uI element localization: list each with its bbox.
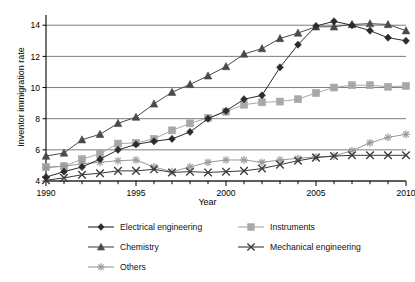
data-point-diamond — [385, 34, 392, 41]
data-point-square — [385, 83, 392, 90]
data-point-asterisk — [366, 139, 374, 147]
legend-marker-x-icon — [236, 240, 266, 254]
legend-entry-instruments[interactable]: Instruments — [236, 218, 315, 235]
data-point-asterisk — [222, 156, 230, 164]
data-point-square — [248, 223, 255, 230]
chart-legend: Electrical engineeringInstrumentsChemist… — [0, 216, 415, 282]
data-point-asterisk — [240, 156, 248, 164]
data-point-diamond — [169, 135, 176, 142]
y-tick-label: 4 — [35, 176, 40, 186]
data-point-asterisk — [132, 156, 140, 164]
data-point-triangle — [186, 80, 194, 87]
data-point-diamond — [259, 92, 266, 99]
data-point-diamond — [367, 27, 374, 34]
legend-label: Chemistry — [120, 242, 159, 252]
legend-item: Instruments — [236, 218, 315, 235]
legend-marker-asterisk-icon — [86, 260, 116, 274]
plot-area: 46810121419901995200020052010 — [0, 0, 415, 215]
data-point-square — [259, 99, 266, 106]
data-point-square — [313, 89, 320, 96]
data-point-triangle — [366, 20, 374, 27]
y-tick-label: 8 — [35, 114, 40, 124]
x-axis-title: Year — [0, 197, 415, 207]
data-point-asterisk — [97, 263, 104, 270]
legend-entry-mechanical-engineering[interactable]: Mechanical engineering — [236, 238, 361, 255]
data-point-triangle — [204, 72, 212, 79]
legend-label: Instruments — [270, 222, 315, 232]
legend-marker-triangle-icon — [86, 240, 116, 254]
data-point-asterisk — [402, 130, 410, 138]
legend-marker-diamond-icon — [86, 220, 116, 234]
y-axis-title: Inventor immigration rate — [16, 37, 26, 157]
data-point-diamond — [403, 37, 410, 44]
legend-marker-square-icon — [236, 220, 266, 234]
legend-label: Mechanical engineering — [270, 242, 361, 252]
data-point-triangle — [168, 88, 176, 95]
data-point-triangle — [96, 130, 104, 137]
data-point-square — [169, 127, 176, 134]
chart-page: 46810121419901995200020052010 Inventor i… — [0, 0, 415, 282]
series-chemistry — [42, 20, 410, 160]
y-tick-label: 6 — [35, 145, 40, 155]
legend-entry-chemistry[interactable]: Chemistry — [86, 238, 159, 255]
data-point-square — [277, 98, 284, 105]
y-tick-label: 14 — [30, 20, 40, 30]
data-point-asterisk — [204, 158, 212, 166]
legend-item: Mechanical engineering — [236, 238, 361, 255]
data-point-triangle — [132, 113, 140, 120]
legend-entry-others[interactable]: Others — [86, 258, 146, 275]
legend-item: Electrical engineering — [86, 218, 202, 235]
legend-entry-electrical-engineering[interactable]: Electrical engineering — [86, 218, 202, 235]
data-point-asterisk — [42, 164, 50, 172]
data-point-square — [367, 82, 374, 89]
data-point-asterisk — [114, 157, 122, 165]
data-point-diamond — [98, 223, 104, 230]
data-point-square — [331, 84, 338, 91]
data-point-asterisk — [384, 133, 392, 141]
data-point-square — [295, 96, 302, 103]
data-point-triangle — [222, 63, 230, 70]
data-point-diamond — [187, 128, 194, 135]
legend-label: Electrical engineering — [120, 222, 202, 232]
data-point-square — [349, 82, 356, 89]
legend-item: Chemistry — [86, 238, 159, 255]
data-point-triangle — [150, 100, 158, 107]
data-point-triangle — [258, 45, 266, 52]
legend-item: Others — [86, 258, 146, 275]
data-point-square — [187, 120, 194, 127]
data-point-diamond — [331, 18, 338, 25]
line-chart: 46810121419901995200020052010 Inventor i… — [0, 0, 415, 215]
data-point-square — [403, 82, 410, 89]
y-tick-label: 10 — [30, 83, 40, 93]
y-tick-label: 12 — [30, 52, 40, 62]
legend-label: Others — [120, 262, 146, 272]
